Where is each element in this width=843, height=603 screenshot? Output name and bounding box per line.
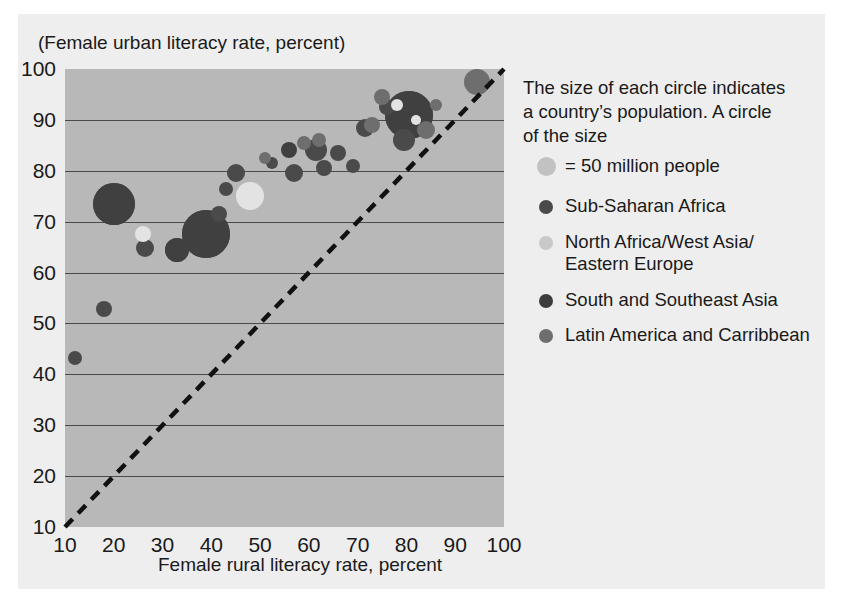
gridline: [65, 374, 504, 375]
gridline: [65, 120, 504, 121]
gridline: [65, 425, 504, 426]
legend-note-line-1: The size of each circle indicates: [523, 77, 785, 98]
data-point-bubble: [96, 301, 112, 317]
y-axis-tick-label: 40: [33, 362, 56, 386]
data-point-bubble: [236, 182, 264, 210]
y-axis-title: (Female urban literacy rate, percent): [38, 32, 345, 54]
legend-swatch-circle-icon: [539, 329, 553, 343]
data-point-bubble: [346, 159, 360, 173]
legend-swatch-circle-icon: [539, 294, 553, 308]
data-point-bubble: [93, 183, 135, 225]
gridline: [65, 323, 504, 324]
data-point-bubble: [430, 99, 442, 111]
y-axis-tick-label: 80: [33, 159, 56, 183]
legend-item-label: Sub-Saharan Africa: [565, 195, 725, 218]
data-point-bubble: [330, 145, 346, 161]
legend-item-label: North Africa/West Asia/Eastern Europe: [565, 231, 754, 276]
plot-area: 1020304050607080901001020304050607080901…: [65, 69, 504, 527]
data-point-bubble: [285, 164, 303, 182]
y-axis-tick-label: 100: [21, 57, 56, 81]
data-point-bubble: [464, 69, 490, 95]
x-axis-tick-label: 20: [102, 533, 125, 557]
legend-series-list: Sub-Saharan AfricaNorth Africa/West Asia…: [523, 195, 843, 347]
data-point-bubble: [364, 117, 380, 133]
legend-size-key: = 50 million people: [523, 155, 843, 177]
data-point-bubble: [211, 206, 227, 222]
diagonal-reference-line: [65, 69, 504, 527]
x-axis-tick-label: 90: [444, 533, 467, 557]
data-point-bubble: [374, 89, 390, 105]
data-point-bubble: [165, 238, 189, 262]
data-point-bubble: [316, 160, 332, 176]
data-point-bubble: [227, 164, 245, 182]
data-point-bubble: [281, 142, 297, 158]
legend-swatch-circle-icon: [539, 200, 553, 214]
legend-note-line-3: of the size: [523, 125, 607, 146]
chart-legend: The size of each circle indicates a coun…: [523, 76, 843, 360]
x-axis-title: Female rural literacy rate, percent: [158, 554, 442, 576]
data-point-bubble: [391, 99, 403, 111]
legend-size-swatch-circle-icon: [537, 157, 556, 176]
gridline: [65, 476, 504, 477]
y-axis-tick-label: 20: [33, 464, 56, 488]
legend-item: South and Southeast Asia: [523, 289, 843, 312]
data-point-bubble: [135, 226, 151, 242]
gridline: [65, 273, 504, 274]
data-point-bubble: [312, 133, 326, 147]
legend-size-label: = 50 million people: [565, 155, 720, 177]
legend-item: Latin America and Carribbean: [523, 324, 843, 347]
legend-swatch-circle-icon: [539, 236, 553, 250]
legend-item-label: South and Southeast Asia: [565, 289, 778, 312]
chart-page: (Female urban literacy rate, percent) 10…: [18, 14, 825, 589]
legend-item: Sub-Saharan Africa: [523, 195, 843, 218]
gridline: [65, 222, 504, 223]
y-axis-tick-label: 70: [33, 210, 56, 234]
legend-item-label: Latin America and Carribbean: [565, 324, 810, 347]
data-point-bubble: [393, 129, 415, 151]
y-axis-tick-label: 90: [33, 108, 56, 132]
data-point-bubble: [259, 152, 271, 164]
x-axis-tick-label: 100: [486, 533, 521, 557]
data-point-bubble: [219, 182, 233, 196]
legend-item: North Africa/West Asia/Eastern Europe: [523, 231, 843, 276]
y-axis-tick-label: 50: [33, 311, 56, 335]
legend-note-line-2: a country’s population. A circle: [523, 101, 772, 122]
legend-description: The size of each circle indicates a coun…: [523, 76, 813, 148]
data-point-bubble: [411, 115, 421, 125]
data-point-bubble: [417, 121, 435, 139]
data-point-bubble: [68, 351, 82, 365]
y-axis-tick-label: 30: [33, 413, 56, 437]
data-point-bubble: [297, 136, 311, 150]
y-axis-tick-label: 60: [33, 261, 56, 285]
x-axis-tick-label: 10: [53, 533, 76, 557]
